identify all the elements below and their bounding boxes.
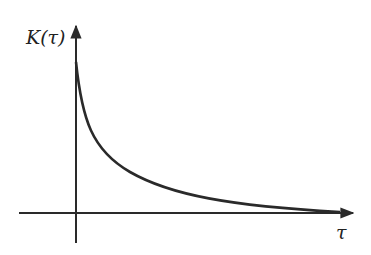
kernel-plot: K(τ) τ bbox=[0, 0, 371, 255]
x-axis-label: τ bbox=[336, 221, 347, 243]
kernel-curve bbox=[76, 62, 340, 212]
y-axis-label: K(τ) bbox=[25, 26, 66, 48]
